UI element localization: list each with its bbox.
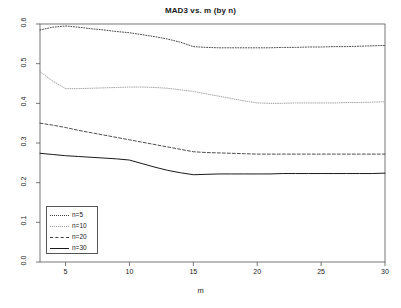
- x-tick-label: 20: [247, 268, 267, 275]
- legend-label-n10: n=10: [72, 221, 87, 231]
- series-line-n20: [40, 123, 385, 154]
- series-line-n30: [40, 153, 385, 174]
- series-line-n10: [40, 72, 385, 104]
- y-tick-label: 0.3: [20, 132, 27, 152]
- y-tick-label: 0.6: [20, 13, 27, 33]
- y-tick-label: 0.2: [20, 171, 27, 191]
- x-axis-label: m: [0, 286, 401, 295]
- y-tick-label: 0.4: [20, 92, 27, 112]
- legend-label-n5: n=5: [72, 210, 83, 220]
- legend-item-n20[interactable]: n=20: [50, 233, 98, 243]
- series-line-n5: [40, 26, 385, 48]
- legend-swatch-n5-icon: [50, 215, 69, 218]
- legend-item-n30[interactable]: n=30: [50, 244, 98, 254]
- legend: n=5 n=10 n=20 n=30: [46, 206, 98, 254]
- legend-swatch-n30-icon: [50, 248, 69, 251]
- y-tick-label: 0.0: [20, 251, 27, 271]
- legend-swatch-n20-icon: [50, 237, 69, 240]
- x-tick-label: 30: [375, 268, 395, 275]
- plot-root: MAD3 vs. m (by n) 51015202530 0.00.10.20…: [0, 0, 401, 308]
- x-tick-label: 15: [183, 268, 203, 275]
- x-tick-label: 5: [56, 268, 76, 275]
- x-tick-label: 25: [311, 268, 331, 275]
- legend-swatch-n10-icon: [50, 226, 69, 229]
- x-tick-label: 10: [119, 268, 139, 275]
- y-tick-label: 0.5: [20, 52, 27, 72]
- legend-item-n5[interactable]: n=5: [50, 211, 98, 221]
- y-tick-label: 0.1: [20, 211, 27, 231]
- legend-label-n20: n=20: [72, 232, 87, 242]
- chart-canvas: [0, 0, 401, 308]
- legend-item-n10[interactable]: n=10: [50, 222, 98, 232]
- series-group: [40, 26, 385, 175]
- legend-label-n30: n=30: [72, 243, 87, 253]
